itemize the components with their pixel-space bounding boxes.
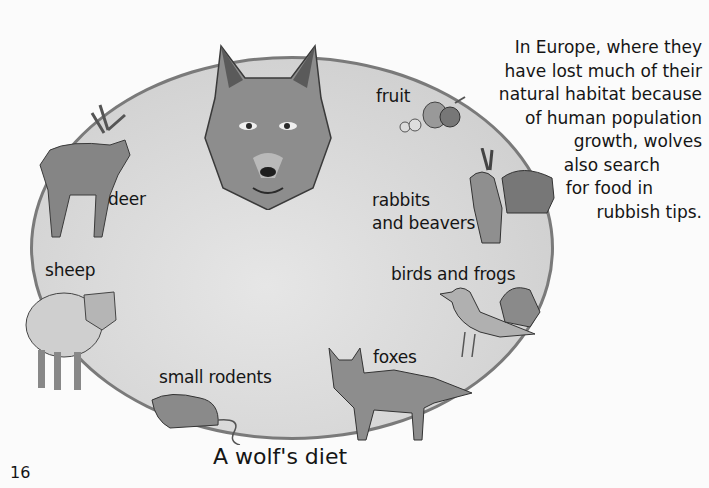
sidebar-line: In Europe, where they [440,36,702,60]
label-birds-frogs: birds and frogs [391,264,515,285]
page-caption: A wolf's diet [213,444,347,469]
wolf-head-illustration [203,38,333,210]
sidebar-line: for food in [440,177,702,201]
label-fruit: fruit [376,86,410,107]
sidebar-line: also search [440,154,702,178]
sidebar-line: have lost much of their [440,60,702,84]
sidebar-line: growth, wolves [440,130,702,154]
sheep-illustration [24,280,119,392]
label-deer: deer [108,189,146,210]
label-sheep: sheep [45,260,95,281]
rodent-illustration [150,390,250,445]
sidebar-paragraph: In Europe, where they have lost much of … [440,36,702,224]
label-rabbits: rabbits [372,190,430,211]
sidebar-line: natural habitat because [440,83,702,107]
page-number: 16 [10,463,30,482]
sidebar-line: rubbish tips. [440,201,702,225]
deer-illustration [30,95,140,240]
label-foxes: foxes [373,347,417,368]
sidebar-line: of human population [440,107,702,131]
label-small-rodents: small rodents [159,367,272,388]
